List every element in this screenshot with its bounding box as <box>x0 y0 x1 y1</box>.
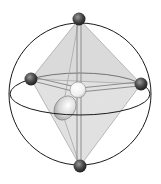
bipyramid-faces <box>31 19 141 166</box>
equatorial-left-atom <box>25 73 38 86</box>
trigonal-bipyramid-diagram <box>0 0 161 184</box>
equatorial-right-atom <box>135 78 148 91</box>
central-atom <box>70 82 86 98</box>
axial-top-atom <box>73 13 86 26</box>
axial-bottom-atom <box>74 160 87 173</box>
